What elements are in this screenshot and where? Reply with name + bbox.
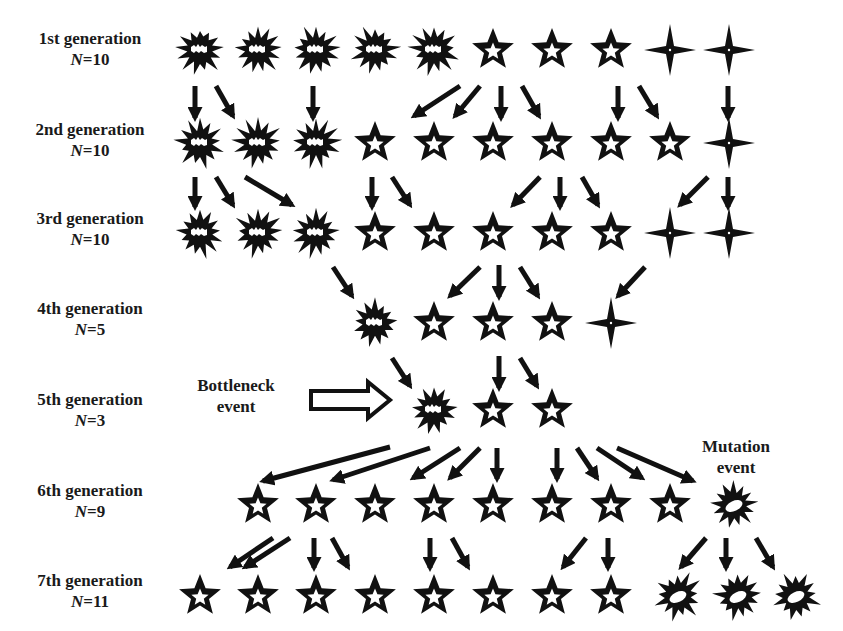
descent-arrow-icon	[513, 177, 540, 205]
star-icon	[354, 121, 396, 161]
burst-icon	[351, 27, 402, 74]
star-icon	[590, 574, 632, 614]
burst-icon	[175, 31, 224, 75]
generation-title: 5th generation	[37, 390, 142, 409]
star-icon	[237, 483, 279, 523]
generation-label-5: 5th generation N=3	[10, 389, 170, 431]
descent-arrow-icon	[333, 267, 352, 296]
star-icon	[413, 574, 455, 614]
descent-arrow-icon	[520, 358, 537, 386]
burst-icon	[407, 28, 458, 76]
descent-arrow-icon	[582, 177, 598, 205]
star-icon	[354, 574, 396, 614]
descent-arrow-icon	[263, 447, 390, 481]
burst-icon	[295, 27, 341, 74]
descent-arrow-icon	[617, 448, 693, 481]
descent-arrow-icon	[563, 538, 586, 567]
star-icon	[649, 483, 691, 523]
generation-title: 3rd generation	[36, 209, 143, 228]
burst-icon	[173, 118, 223, 169]
generation-label-2: 2nd generation N=10	[10, 119, 170, 161]
generation-title: 7th generation	[37, 571, 142, 590]
burst-icon	[236, 209, 282, 259]
generation-title: 2nd generation	[35, 120, 144, 139]
star-icon	[531, 574, 573, 614]
descent-arrow-icon	[414, 86, 460, 116]
star-icon	[237, 574, 279, 614]
generation-label-4: 4th generation N=5	[10, 298, 170, 340]
generation-title: 1st generation	[39, 29, 141, 48]
star-icon	[590, 28, 632, 68]
descent-arrow-icon	[597, 448, 642, 478]
generation-title: 6th generation	[37, 481, 142, 500]
descent-arrow-icon	[245, 177, 292, 205]
generation-label-6: 6th generation N=9	[10, 480, 170, 522]
star-icon	[295, 574, 337, 614]
mutant-icon	[712, 575, 761, 622]
star-icon	[472, 121, 514, 161]
mutant-icon	[773, 574, 821, 620]
burst-icon	[412, 388, 458, 435]
star-icon	[531, 388, 573, 428]
generation-label-1: 1st generation N=10	[10, 28, 170, 70]
star-icon	[590, 483, 632, 523]
burst-icon	[354, 297, 397, 347]
generation-title: 4th generation	[37, 299, 142, 318]
individuals	[173, 24, 821, 622]
generation-label-3: 3rd generation N=10	[10, 208, 170, 250]
descent-arrow-icon	[392, 177, 410, 205]
star-icon	[531, 121, 573, 161]
generation-label-7: 7th generation N=11	[10, 570, 170, 612]
population-size: N=5	[10, 319, 170, 340]
star-icon	[531, 28, 573, 68]
descent-arrow-icon	[452, 538, 468, 567]
sparkle-icon	[644, 24, 696, 76]
burst-icon	[176, 210, 223, 259]
population-size: N=10	[10, 229, 170, 250]
burst-icon	[235, 27, 282, 73]
population-size: N=10	[10, 140, 170, 161]
descent-arrow-icon	[216, 177, 233, 205]
star-icon	[179, 574, 221, 614]
star-icon	[413, 301, 455, 341]
population-size: N=9	[10, 501, 170, 522]
population-size: N=10	[10, 49, 170, 70]
star-icon	[413, 121, 455, 161]
star-icon	[531, 483, 573, 523]
mutant-icon	[655, 572, 700, 621]
star-icon	[413, 483, 455, 523]
star-icon	[472, 388, 514, 428]
sparkle-icon	[644, 207, 696, 259]
star-icon	[531, 301, 573, 341]
star-icon	[354, 483, 396, 523]
population-size: N=3	[10, 410, 170, 431]
descent-arrow-icon	[520, 267, 538, 296]
star-icon	[590, 211, 632, 251]
mutant-icon	[710, 480, 758, 528]
star-icon	[413, 211, 455, 251]
descent-arrow-icon	[450, 267, 480, 296]
burst-icon	[293, 118, 342, 169]
sparkle-icon	[585, 297, 637, 349]
sparkle-icon	[703, 117, 755, 169]
star-icon	[649, 121, 691, 161]
star-icon	[590, 121, 632, 161]
star-icon	[531, 211, 573, 251]
descent-arrow-icon	[216, 86, 233, 116]
descent-arrow-icon	[577, 448, 597, 478]
burst-icon	[231, 117, 280, 168]
descent-arrow-icon	[392, 358, 410, 386]
bottleneck-arrow-icon	[311, 382, 390, 418]
descent-arrow-icon	[639, 86, 657, 116]
descent-arrow-icon	[522, 86, 539, 116]
descent-arrow-icon	[681, 538, 706, 567]
mutation-event-label: Mutation event	[686, 436, 786, 478]
sparkle-icon	[703, 207, 755, 259]
descent-arrow-icon	[680, 177, 708, 205]
descent-arrow-icon	[618, 267, 645, 296]
star-icon	[472, 574, 514, 614]
star-icon	[295, 483, 337, 523]
descent-arrow-icon	[455, 86, 480, 116]
descent-arrow-icon	[756, 538, 773, 567]
population-size: N=11	[10, 591, 170, 612]
